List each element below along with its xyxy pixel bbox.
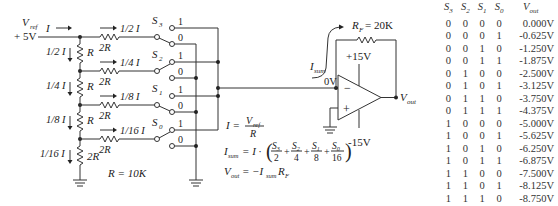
table-row: 1110-8.750V	[440, 193, 558, 206]
svg-text:1: 1	[178, 84, 183, 95]
switch-bit-cell: 0	[457, 155, 474, 168]
switch-bit-cell: 0	[457, 18, 474, 31]
switch-bit-cell: 1	[491, 205, 508, 206]
switch-s2[interactable]: S 2 1 0	[152, 48, 183, 81]
svg-text:1/4 I: 1/4 I	[46, 80, 66, 91]
truth-table-header: S3 S2 S1 S0 Vout	[440, 1, 558, 18]
switch-bit-cell: 0	[474, 18, 491, 31]
header-s0: S0	[491, 1, 508, 18]
switch-bit-cell: 1	[440, 118, 457, 131]
switch-bit-cell: 1	[440, 193, 457, 206]
switch-bit-cell: 0	[491, 118, 508, 131]
switch-bit-cell: 1	[491, 180, 508, 193]
table-row: 0110-3.750V	[440, 93, 558, 106]
switch-bit-cell: 1	[457, 168, 474, 181]
truth-table: S3 S2 S1 S0 Vout 00000.000V0001-0.625V00…	[440, 1, 558, 206]
svg-text:): )	[345, 140, 352, 163]
switch-bit-cell: 0	[457, 55, 474, 68]
vout-cell: -3.125V	[508, 80, 558, 93]
vout-cell: 0.000V	[508, 18, 558, 31]
switch-bit-cell: 0	[491, 68, 508, 81]
series-r-label: R	[86, 80, 94, 92]
svg-text:S: S	[152, 14, 158, 26]
svg-text:1: 1	[159, 89, 163, 97]
table-row: 0101-3.125V	[440, 80, 558, 93]
supply-positive: +15V	[346, 50, 371, 62]
svg-text:R: R	[351, 19, 359, 31]
switch-bit-cell: 0	[474, 30, 491, 43]
svg-text:out: out	[231, 172, 240, 179]
table-row: 0100-2.500V	[440, 68, 558, 81]
switch-bit-cell: 1	[474, 93, 491, 106]
switch-bit-cell: 1	[491, 105, 508, 118]
switch-s3[interactable]: S 3 1 0	[152, 14, 183, 47]
svg-text:+: +	[324, 146, 330, 157]
switch-bit-cell: 1	[474, 105, 491, 118]
svg-text:R: R	[277, 165, 285, 177]
switch-bit-cell: 1	[440, 205, 457, 206]
svg-text:F: F	[284, 172, 290, 179]
svg-text:= −I: = −I	[242, 165, 265, 177]
svg-text:0: 0	[178, 100, 183, 111]
svg-text:sum: sum	[266, 172, 277, 179]
arrow-right-icon	[56, 26, 72, 31]
svg-text:+ 5V: + 5V	[14, 30, 36, 42]
table-row: 1111-9.375V	[440, 205, 558, 206]
virtual-ground-label: 0V	[324, 76, 337, 87]
switch-bit-cell: 1	[474, 143, 491, 156]
svg-text:0: 0	[159, 123, 163, 131]
svg-text:sum: sum	[314, 67, 325, 75]
r2r-dac-schematic: V ref + 5V I R R R 2R 1/2 I 1/4 I 1/8 I …	[0, 0, 440, 206]
branch-r-label: 2R	[99, 110, 111, 121]
table-row: 0010-1.250V	[440, 43, 558, 56]
svg-text:16: 16	[332, 153, 342, 163]
svg-text:0: 0	[178, 66, 183, 77]
svg-text:3: 3	[158, 21, 163, 29]
switch-bit-cell: 1	[440, 143, 457, 156]
svg-text:S3: S3	[272, 141, 280, 152]
switch-bit-cell: 1	[491, 80, 508, 93]
switch-s1[interactable]: S 1 1 0	[152, 82, 183, 115]
switch-bit-cell: 1	[491, 30, 508, 43]
switch-s0[interactable]: S 0 1 0	[152, 116, 183, 149]
switch-bit-cell: 1	[457, 193, 474, 206]
ladder-current-labels: 1/2 I 1/4 I 1/8 I 1/16 I	[40, 46, 73, 164]
vout-cell: -9.375V	[508, 205, 558, 206]
svg-text:1/2 I: 1/2 I	[120, 23, 140, 34]
vout-cell: -4.375V	[508, 105, 558, 118]
switch-bit-cell: 1	[491, 55, 508, 68]
eq1: I =	[225, 119, 240, 131]
switch-bit-cell: 1	[474, 43, 491, 56]
svg-text:1/2 I: 1/2 I	[46, 46, 66, 57]
svg-text:+: +	[304, 146, 310, 157]
svg-text:S: S	[152, 48, 158, 60]
series-r-label: R	[86, 46, 94, 58]
header-s1: S1	[474, 1, 491, 18]
switch-bit-cell: 0	[491, 193, 508, 206]
svg-text:1/4 I: 1/4 I	[120, 57, 140, 68]
switch-bit-cell: 0	[440, 93, 457, 106]
table-row: 0011-1.875V	[440, 55, 558, 68]
header-s3: S3	[440, 1, 457, 18]
input-current-label: I	[45, 22, 51, 34]
svg-text:= 20K: = 20K	[365, 19, 393, 31]
switch-bit-cell: 1	[440, 130, 457, 143]
svg-text:S: S	[152, 82, 158, 94]
svg-text:S1: S1	[312, 141, 320, 152]
ladder-spine	[73, 35, 87, 186]
vout-cell: -1.875V	[508, 55, 558, 68]
table-row: 1010-6.250V	[440, 143, 558, 156]
table-row: 1101-8.125V	[440, 180, 558, 193]
svg-text:1: 1	[178, 118, 183, 129]
switch-bit-cell: 0	[440, 18, 457, 31]
switch-bit-cell: 0	[474, 168, 491, 181]
vout-cell: -5.625V	[508, 130, 558, 143]
switch-bit-cell: 1	[440, 155, 457, 168]
svg-text:out: out	[407, 98, 417, 106]
switch-bit-cell: 0	[440, 68, 457, 81]
switch-bit-cell: 0	[491, 168, 508, 181]
switch-bit-cell: 1	[474, 193, 491, 206]
svg-text:1/8 I: 1/8 I	[46, 114, 66, 125]
vout-cell: -3.750V	[508, 93, 558, 106]
switch-bit-cell: 1	[491, 155, 508, 168]
